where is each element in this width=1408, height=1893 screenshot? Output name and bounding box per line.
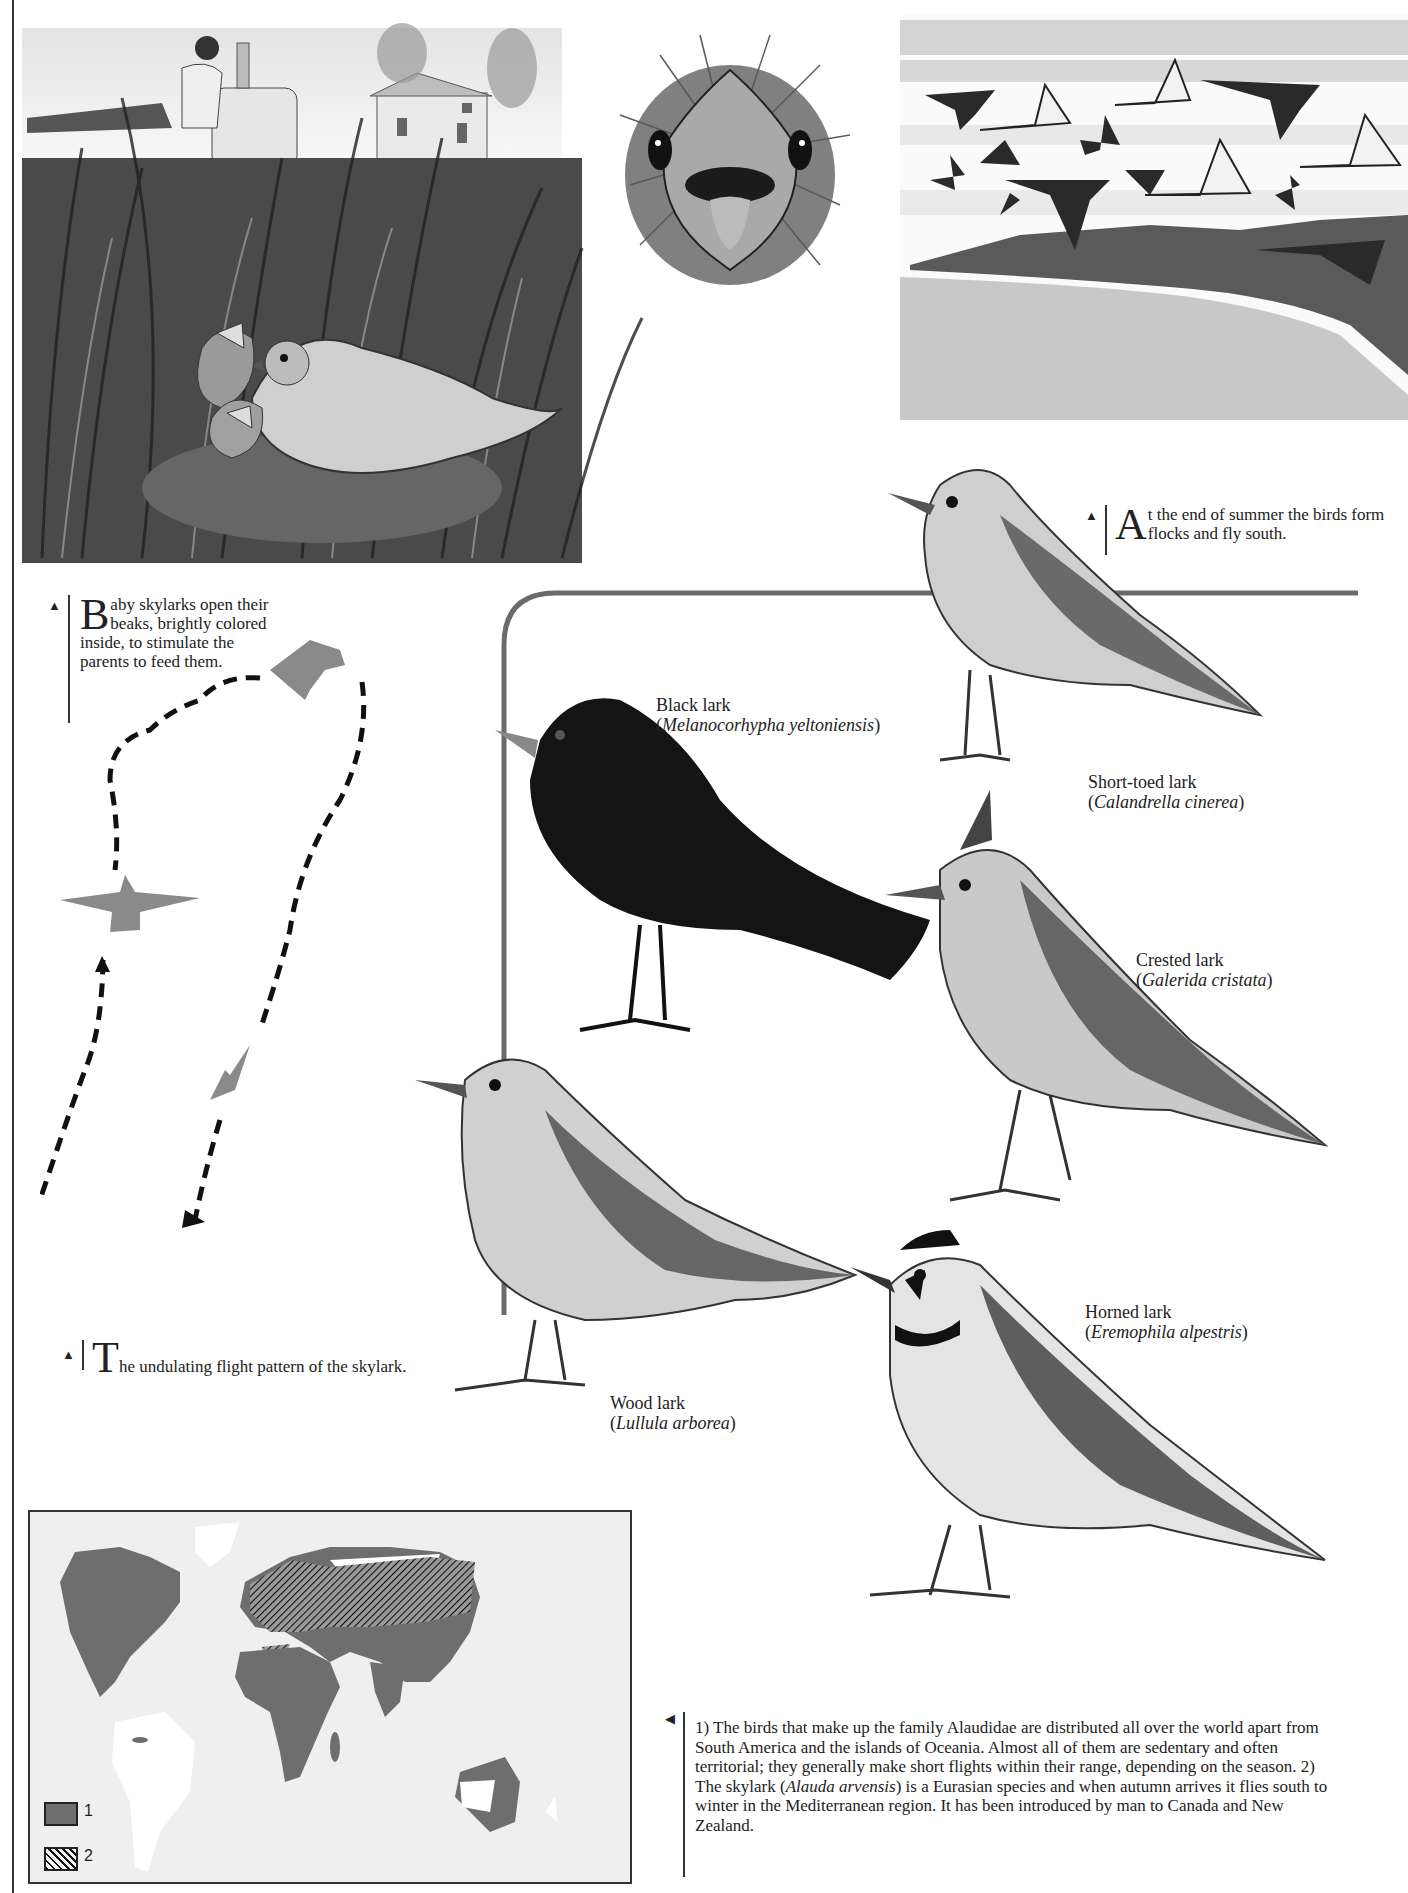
caption-rule [82, 1340, 84, 1370]
caption-distribution: ◀ 1) The birds that make up the family A… [665, 1712, 1405, 1882]
legend-swatch-skylark-range [44, 1847, 78, 1871]
species-label-crested-lark: Crested lark (Galerida cristata) [1136, 950, 1273, 990]
chick-open-beak-illustration [600, 25, 860, 305]
scientific-name: Lullula arborea [616, 1413, 730, 1433]
caption-rule [683, 1712, 685, 1877]
flight-pattern-diagram [40, 630, 440, 1310]
horned-lark-illustration [850, 1225, 1330, 1605]
black-lark-illustration [490, 680, 940, 1060]
species-label-wood-lark: Wood lark (Lullula arborea) [610, 1393, 736, 1433]
legend-label-1: 1 [84, 1802, 93, 1820]
common-name: Crested lark [1136, 950, 1273, 970]
common-name: Black lark [656, 695, 880, 715]
dropcap: B [80, 597, 109, 633]
common-name: Horned lark [1085, 1302, 1248, 1322]
nest-illustration [22, 18, 662, 563]
common-name: Wood lark [610, 1393, 736, 1413]
species-label-short-toed-lark: Short-toed lark (Calandrella cinerea) [1088, 772, 1244, 812]
legend-label-2: 2 [84, 1847, 93, 1865]
migrating-flock-illustration [900, 15, 1408, 420]
scientific-name: Galerida cristata [1142, 970, 1267, 990]
triangle-left-marker-icon: ◀ [665, 1712, 675, 1725]
legend-swatch-family-range [44, 1802, 78, 1826]
caption-text-italic-species: Alauda arvensis [786, 1777, 896, 1796]
caption-text: he undulating flight pattern of the skyl… [119, 1357, 407, 1376]
wood-lark-illustration [415, 1040, 865, 1400]
species-label-horned-lark: Horned lark (Eremophila alpestris) [1085, 1302, 1248, 1342]
common-name: Short-toed lark [1088, 772, 1244, 792]
dropcap: T [92, 1333, 119, 1382]
triangle-up-marker-icon: ▲ [48, 599, 61, 612]
page-margin-rule [12, 0, 14, 1893]
scientific-name: Eremophila alpestris [1091, 1322, 1242, 1342]
species-label-black-lark: Black lark (Melanocorhypha yeltoniensis) [656, 695, 880, 735]
scientific-name: Melanocorhypha yeltoniensis [662, 715, 874, 735]
triangle-up-marker-icon: ▲ [62, 1348, 75, 1361]
distribution-map: 1 2 [28, 1510, 632, 1884]
crested-lark-illustration [880, 790, 1330, 1250]
scientific-name: Calandrella cinerea [1094, 792, 1238, 812]
